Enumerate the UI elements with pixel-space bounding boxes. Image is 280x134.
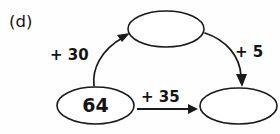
- arrow-plus-30-label: + 30: [50, 46, 89, 64]
- part-label: (d): [9, 12, 32, 31]
- arrow-plus-30: [94, 33, 130, 86]
- arrow-plus-5-label: + 5: [235, 43, 263, 61]
- figure-canvas: (d) + 30 + 5 + 35 64: [0, 0, 280, 134]
- diagram-svg: (d) + 30 + 5 + 35 64: [0, 0, 280, 134]
- arrow-plus-35-head: [188, 104, 198, 114]
- arrow-plus-30-curve: [94, 37, 124, 86]
- node-ellipse-end[interactable]: [200, 88, 277, 124]
- node-ellipse-top[interactable]: [128, 11, 204, 47]
- arrow-plus-5-head: [236, 74, 247, 87]
- node-value-start: 64: [82, 94, 108, 116]
- arrow-plus-35-label: + 35: [141, 88, 180, 106]
